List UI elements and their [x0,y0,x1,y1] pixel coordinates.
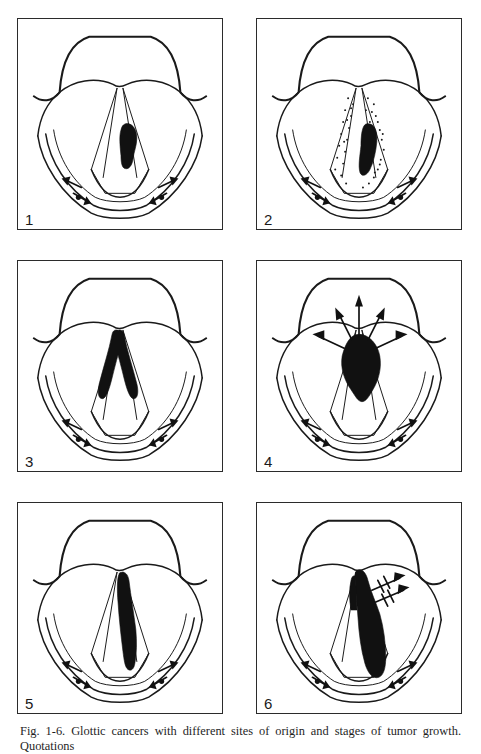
panel-number-5: 5 [25,696,33,711]
tumor-mass-3 [98,330,138,399]
larynx-diagram-3 [18,261,222,471]
supraglottis-outline-2 [277,80,441,136]
panel-number-2: 2 [264,212,272,227]
panel-5: 5 [17,502,223,714]
figure-caption: Fig. 1-6. Glottic cancers with different… [20,724,461,754]
spread-arrows-6 [372,572,410,606]
larynx-diagram-6 [257,503,461,713]
larynx-diagram-4 [257,261,461,471]
panel-4: 4 [256,260,462,472]
tumor-mass-4 [342,334,381,401]
larynx-diagram-2 [257,19,461,229]
larynx-diagram-1 [18,19,222,229]
epiglottis-outline-2 [273,37,445,100]
panel-3: 3 [17,260,223,472]
stippled-mucosa-left-2 [334,97,354,184]
panel-grid: 1 [0,0,481,716]
panel-6: 6 [256,502,462,714]
supraglottis-outline-1 [38,80,202,136]
larynx-diagram-5 [18,503,222,713]
panel-number-6: 6 [264,696,272,711]
false-cord-bands-2 [277,130,441,218]
tumor-mass-5 [117,572,136,670]
vocal-cords-2 [330,88,387,197]
panel-2: 2 [256,18,462,230]
panel-number-1: 1 [25,212,33,227]
false-cord-bands-3 [38,372,202,460]
panel-1: 1 [17,18,223,230]
panel-number-3: 3 [25,454,33,469]
epiglottis-outline-1 [34,37,206,100]
panel-number-4: 4 [264,454,272,469]
